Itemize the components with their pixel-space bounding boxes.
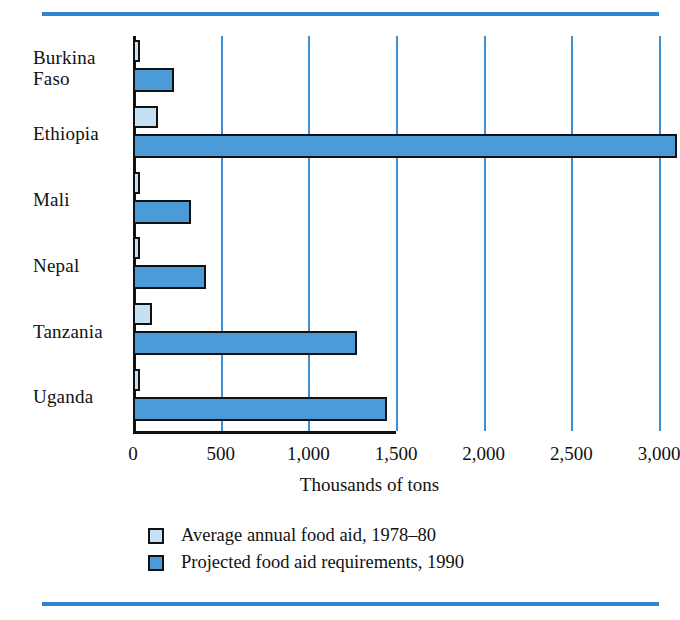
x-tick-label: 0 (128, 443, 138, 465)
bar (133, 68, 174, 92)
category-label-ethiopia: Ethiopia (33, 123, 128, 144)
x-axis-label: Thousands of tons (0, 474, 679, 496)
category-label-uganda: Uganda (33, 386, 128, 407)
legend-label: Projected food aid requirements, 1990 (181, 552, 464, 573)
category-label-line: Nepal (33, 255, 128, 276)
legend-label: Average annual food aid, 1978–80 (181, 525, 436, 546)
bar (133, 200, 191, 224)
bar-group (133, 299, 659, 365)
bar (133, 303, 152, 325)
legend-swatch (148, 555, 164, 571)
category-label-line: Uganda (33, 386, 128, 407)
bar (133, 106, 158, 128)
chart-legend: Average annual food aid, 1978–80Projecte… (148, 522, 464, 576)
bar (133, 172, 140, 194)
x-tick-label: 2,000 (462, 443, 505, 465)
category-label-tanzania: Tanzania (33, 321, 128, 342)
x-tick-label: 2,500 (550, 443, 593, 465)
bar (133, 40, 140, 62)
legend-item: Projected food aid requirements, 1990 (148, 549, 464, 576)
category-label-burkina-faso: BurkinaFaso (33, 47, 128, 89)
category-label-line: Mali (33, 189, 128, 210)
bar-group (133, 365, 659, 431)
bar (133, 265, 206, 289)
category-label-nepal: Nepal (33, 255, 128, 276)
x-tick-label: 1,500 (375, 443, 418, 465)
plot-area (133, 36, 659, 431)
category-label-line: Ethiopia (33, 123, 128, 144)
bar (133, 331, 357, 355)
bar-group (133, 36, 659, 102)
bottom-divider-rule (42, 602, 659, 606)
bar-group (133, 168, 659, 234)
category-label-mali: Mali (33, 189, 128, 210)
bar (133, 134, 677, 158)
x-tick-label: 1,000 (287, 443, 330, 465)
category-label-line: Faso (33, 68, 128, 89)
bar (133, 237, 140, 259)
bar (133, 369, 140, 391)
legend-swatch (148, 528, 164, 544)
top-divider-rule (42, 12, 659, 16)
legend-item: Average annual food aid, 1978–80 (148, 522, 464, 549)
bar-group (133, 102, 659, 168)
bar-group (133, 233, 659, 299)
x-tick-label: 500 (206, 443, 235, 465)
category-label-line: Tanzania (33, 321, 128, 342)
category-label-line: Burkina (33, 47, 128, 68)
gridline-3000 (659, 36, 661, 431)
x-axis-baseline (133, 431, 396, 434)
bar (133, 397, 387, 421)
x-tick-label: 3,000 (638, 443, 680, 465)
